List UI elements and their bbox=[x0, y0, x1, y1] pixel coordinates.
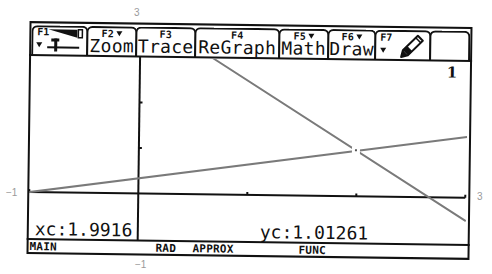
trace-xc-readout: xc:1.9916 bbox=[35, 220, 133, 239]
status-folder: MAIN bbox=[30, 242, 57, 252]
axes bbox=[29, 56, 467, 245]
function-number: 1 bbox=[447, 65, 458, 81]
calculator-display: F1 F2 Zoom F3 Trace F4 ReGraph F5 Math F… bbox=[0, 0, 492, 274]
status-graph-mode: FUNC bbox=[298, 246, 325, 256]
trace-cursor bbox=[355, 149, 357, 151]
trace-cursor-layer bbox=[352, 146, 360, 154]
trace-yc-readout: yc:1.01261 bbox=[260, 223, 369, 242]
plot-line-1 bbox=[29, 131, 466, 197]
status-angle-mode: RAD bbox=[156, 244, 177, 254]
status-approx-mode: APPROX bbox=[192, 244, 233, 255]
